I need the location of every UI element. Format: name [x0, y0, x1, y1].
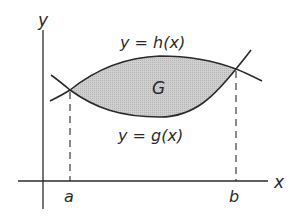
upper-curve-label: y = h(x) — [119, 33, 185, 52]
area-between-curves-diagram: y x a b G y = h(x) y = g(x) — [0, 0, 300, 219]
tick-label-a: a — [64, 187, 74, 206]
tick-label-b: b — [229, 187, 239, 206]
y-axis-label: y — [37, 10, 49, 30]
lower-curve-label: y = g(x) — [117, 126, 183, 145]
x-axis-label: x — [273, 172, 285, 192]
diagram-svg: y x a b G y = h(x) y = g(x) — [0, 0, 300, 219]
region-label-g: G — [152, 78, 165, 98]
